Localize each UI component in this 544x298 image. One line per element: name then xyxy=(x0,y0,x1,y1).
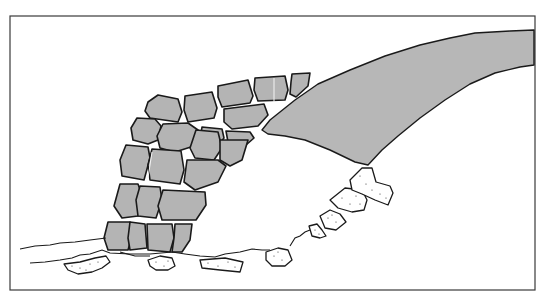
arch-stones xyxy=(104,73,310,252)
rock-slab xyxy=(262,30,534,165)
rubble-stones xyxy=(64,168,393,274)
arch-illustration xyxy=(0,0,544,298)
